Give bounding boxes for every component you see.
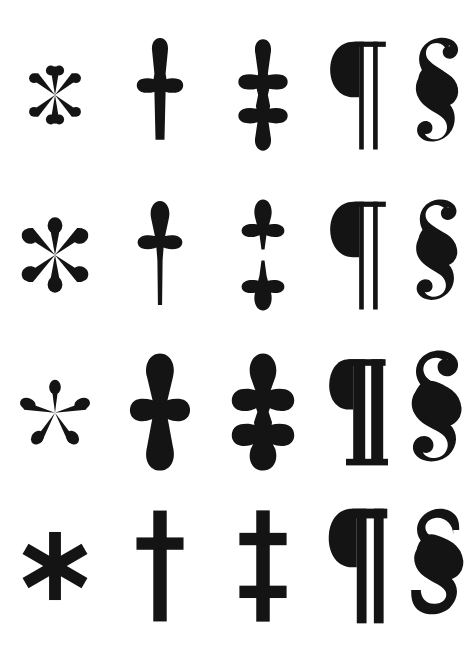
glyph-row-old-style: Asterisk Dagger <box>0 22 473 167</box>
glyph-asterisk-sans-serif[interactable]: Asterisk <box>0 529 110 603</box>
specimen-sheet: Typographic Reference Marks Specimen Ast… <box>0 0 473 660</box>
glyph-asterisk-transitional[interactable]: Asterisk <box>0 214 110 296</box>
glyph-row-bold-serif: Asterisk Dagger <box>0 342 473 482</box>
glyph-row-sans-serif: Asterisk Dagger Double Dagger <box>0 498 473 633</box>
glyph-pilcrow-transitional[interactable]: Pilcrow <box>315 195 400 315</box>
glyph-pilcrow-old-style[interactable]: Pilcrow <box>315 35 400 155</box>
glyph-asterisk-old-style[interactable]: Asterisk <box>0 60 110 130</box>
glyph-pilcrow-sans-serif[interactable]: Pilcrow <box>315 505 400 627</box>
glyph-section-sign-transitional[interactable]: Section Sign <box>400 193 473 317</box>
glyph-section-sign-sans-serif[interactable]: Section Sign <box>400 506 473 626</box>
glyph-double-dagger-sans-serif[interactable]: Double Dagger <box>210 507 315 625</box>
glyph-double-dagger-bold-serif[interactable]: Double Dagger <box>210 350 315 474</box>
glyph-double-dagger-transitional[interactable]: Double Dagger <box>210 189 315 321</box>
glyph-row-transitional: Asterisk Dagger <box>0 182 473 327</box>
glyph-double-dagger-old-style[interactable]: Double Dagger <box>210 31 315 159</box>
glyph-section-sign-old-style[interactable]: Section Sign <box>400 33 473 157</box>
glyph-dagger-sans-serif[interactable]: Dagger <box>110 507 210 625</box>
glyph-dagger-transitional[interactable]: Dagger <box>110 191 210 319</box>
glyph-asterisk-bold-serif[interactable]: Asterisk <box>0 379 110 445</box>
glyph-pilcrow-bold-serif[interactable]: Pilcrow <box>315 352 400 472</box>
glyph-section-sign-bold-serif[interactable]: Section Sign <box>400 350 473 474</box>
glyph-dagger-old-style[interactable]: Dagger <box>110 31 210 159</box>
glyph-dagger-bold-serif[interactable]: Dagger <box>110 350 210 474</box>
